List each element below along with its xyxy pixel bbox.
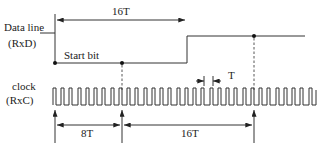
- clock-label: clock: [12, 80, 36, 92]
- sample-dot-1: [120, 61, 124, 65]
- interval-16t-label: 16T: [181, 127, 199, 139]
- clock-waveform: [53, 88, 316, 105]
- interval-8t-label: 8T: [81, 127, 94, 139]
- timing-diagram: Data line (RxD) clock (RxC) Start bit 16…: [0, 0, 328, 149]
- data-line-label: Data line: [4, 21, 44, 33]
- start-edge-dot: [53, 61, 57, 65]
- top-interval-label: 16T: [112, 5, 130, 17]
- period-marker: [196, 76, 221, 86]
- period-label: T: [228, 69, 235, 81]
- data-line-sub-label: (RxD): [8, 37, 36, 50]
- start-bit-label: Start bit: [64, 49, 99, 61]
- sample-dot-2: [252, 34, 256, 38]
- clock-sub-label: (RxC): [6, 94, 34, 107]
